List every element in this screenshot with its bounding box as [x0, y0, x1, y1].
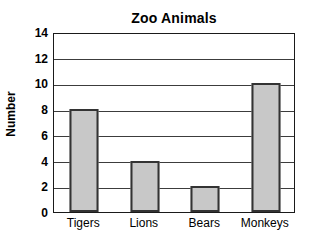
y-tick-label: 0 [4, 207, 48, 219]
x-axis-category-labels: TigersLionsBearsMonkeys [53, 216, 295, 236]
y-tick-label: 14 [4, 27, 48, 39]
plot-area [53, 33, 295, 213]
bar-tigers[interactable] [70, 109, 99, 212]
y-tick-label: 10 [4, 78, 48, 90]
x-tick-label-lions: Lions [114, 216, 175, 231]
y-tick-label: 4 [4, 156, 48, 168]
y-tick-label: 6 [4, 130, 48, 142]
y-axis-tick-labels: 02468101214 [0, 33, 48, 213]
bar-slot [115, 34, 176, 212]
bar-slot [175, 34, 236, 212]
chart-title: Zoo Animals [53, 10, 295, 26]
y-tick-label: 8 [4, 104, 48, 116]
x-tick-label-tigers: Tigers [53, 216, 114, 231]
bar-slot [236, 34, 297, 212]
x-tick-label-bears: Bears [174, 216, 235, 231]
bar-chart-figure: Zoo Animals Number 02468101214 TigersLio… [0, 0, 310, 248]
bar-lions[interactable] [130, 161, 159, 212]
bar-slot [54, 34, 115, 212]
y-tick-label: 12 [4, 53, 48, 65]
bar-monkeys[interactable] [251, 83, 280, 212]
x-tick-label-monkeys: Monkeys [235, 216, 296, 231]
bar-bears[interactable] [191, 186, 220, 212]
y-tick-label: 2 [4, 181, 48, 193]
